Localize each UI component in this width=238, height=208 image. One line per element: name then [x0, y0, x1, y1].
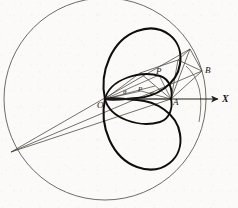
point-dot-O — [104, 98, 107, 101]
point-label-P-upper: P — [156, 67, 162, 76]
geometry-figure: O A P P B θ φ X — [0, 0, 238, 208]
point-label-B: B — [205, 66, 211, 75]
point-label-A: A — [173, 98, 179, 107]
angle-label-phi: φ — [150, 90, 154, 97]
point-dot-A — [170, 98, 173, 101]
point-label-O: O — [97, 101, 104, 110]
point-label-P-inner: P — [138, 86, 142, 93]
angle-label-theta: θ — [123, 89, 126, 96]
x-axis-label: X — [222, 94, 229, 104]
figure-canvas — [0, 0, 238, 208]
